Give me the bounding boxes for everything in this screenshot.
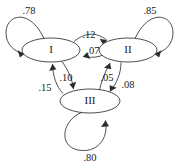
edge-label-II-to-I: .07	[86, 45, 99, 56]
edge-label-II-to-III: .08	[121, 79, 134, 90]
edge-label-III-to-I: .15	[38, 82, 51, 93]
node-state-I[interactable]: I	[22, 38, 80, 62]
arrowhead-III-to-II	[104, 63, 111, 69]
arrowhead-III-to-I	[49, 64, 56, 71]
edge-label-III-to-III: .80	[83, 152, 96, 163]
self-loop-edge-III-to-III	[65, 112, 109, 150]
edge-label-II-to-II: .85	[143, 5, 156, 16]
node-label-III: III	[85, 94, 96, 106]
self-loop-path-III	[65, 112, 106, 150]
edge-label-I-to-I: .78	[22, 5, 35, 16]
node-label-I: I	[49, 43, 53, 55]
arrowhead-II-to-III	[110, 85, 117, 91]
edge-label-I-to-II: .12	[82, 29, 95, 40]
edge-label-III-to-II: .05	[100, 72, 113, 83]
edge-label-I-to-III: .10	[59, 72, 72, 83]
arrowhead-III-to-III	[101, 121, 109, 128]
node-label-II: II	[124, 43, 132, 55]
markov-chain-diagram: I II III .78 .85 .80 .12 .07 .10 .15 .05…	[0, 0, 179, 167]
node-state-II[interactable]: II	[99, 38, 157, 62]
diagram-canvas: I II III .78 .85 .80 .12 .07 .10 .15 .05…	[0, 0, 179, 167]
node-state-III[interactable]: III	[60, 89, 120, 113]
